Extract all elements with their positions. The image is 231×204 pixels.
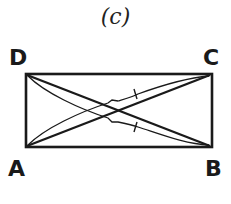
rectangle-diagram: [0, 0, 231, 204]
tick-mark-ac: [134, 89, 137, 99]
